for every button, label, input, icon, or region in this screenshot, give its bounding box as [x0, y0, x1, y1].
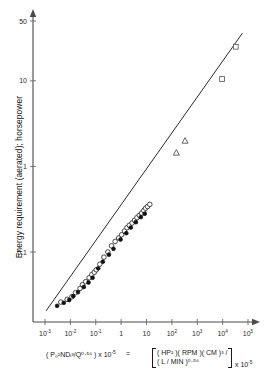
data-point [182, 138, 188, 144]
x-axis-tick-label: 10-3 [39, 329, 51, 337]
x-axis-tick-label: 10 [143, 330, 151, 337]
x-axis-tick-label: 10-1 [90, 329, 102, 337]
x-axis-tick-label: 104 [217, 329, 228, 337]
data-point [67, 298, 71, 302]
chart-figure: Energy requirement (aerated); horsepower… [0, 0, 269, 388]
x-axis-label-tail: x 10-5 [235, 360, 253, 369]
fit-line [46, 33, 242, 311]
data-point [134, 220, 138, 224]
x-axis-tick-label: 10-2 [64, 329, 76, 337]
x-axis-tick-label: 103 [192, 329, 203, 337]
bracket-right [228, 348, 232, 368]
x-axis-tick-label: 1 [119, 330, 123, 337]
y-axis-tick-label: 50 [19, 18, 27, 25]
data-point [143, 212, 147, 216]
data-point [107, 253, 111, 257]
series-circle-filled [55, 212, 146, 308]
bracket-line-1: ( HP² )( RPM )( CM )³ / [157, 349, 227, 358]
data-point [55, 304, 59, 308]
bracket-line-2: ( L / MIN )⁰·⁵⁶ [157, 358, 227, 367]
data-point [129, 226, 133, 230]
scatter-plot-canvas: 501010.110-310-210-1110102103104105 [0, 0, 269, 388]
x-axis-label-equals: = [126, 350, 130, 357]
x-axis-arrowhead [252, 319, 260, 325]
data-point [220, 77, 225, 82]
data-point [82, 285, 86, 289]
data-point [71, 294, 75, 298]
data-point [173, 150, 179, 156]
data-point [119, 238, 123, 242]
data-point [112, 247, 116, 251]
data-point [96, 266, 100, 270]
series-circle-open [59, 202, 153, 304]
data-point [76, 290, 80, 294]
x-axis-tick-label: 102 [167, 329, 178, 337]
data-point [233, 44, 238, 49]
x-axis-label-left: ( P₀²NDᵢ³/Q⁰·⁵⁶ ) x 10-5 [46, 350, 116, 359]
data-point [102, 255, 107, 260]
data-point [91, 276, 95, 280]
x-axis-label-bracket: ( HP² )( RPM )( CM )³ / ( L / MIN )⁰·⁵⁶ [152, 348, 232, 368]
data-point [62, 301, 66, 305]
data-point [148, 202, 153, 207]
y-axis-arrowhead [30, 9, 36, 17]
y-axis-title: Energy requirement (aerated); horsepower [14, 52, 24, 302]
data-point [139, 215, 143, 219]
data-point [87, 281, 91, 285]
series-triangle-open [173, 138, 188, 156]
series-square-open [220, 44, 239, 81]
x-axis-tick-label: 105 [243, 329, 254, 337]
data-point [124, 231, 128, 235]
x-axis-label-group: ( P₀²NDᵢ³/Q⁰·⁵⁶ ) x 10-5 = ( HP² )( RPM … [0, 348, 269, 386]
data-point [101, 260, 105, 264]
